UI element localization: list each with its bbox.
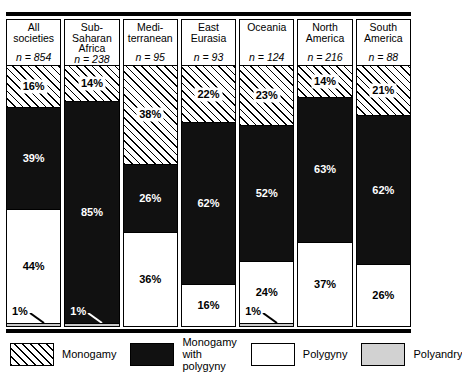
stacked-bar: 16%39%44%1% bbox=[6, 66, 61, 327]
bar-segment-monogamy: 16% bbox=[7, 66, 60, 108]
column-sample-size: n = 238 bbox=[74, 54, 109, 65]
bar-segment-mono-poly: 62% bbox=[182, 123, 235, 284]
column-title: Oceania bbox=[247, 22, 286, 33]
column-header: Medi- terraneann = 95 bbox=[123, 19, 178, 66]
bar-segment-monogamy: 22% bbox=[182, 66, 235, 123]
segment-value-label: 62% bbox=[372, 185, 394, 196]
column-header: Oceanian = 124 bbox=[239, 19, 294, 66]
segment-value-label: 52% bbox=[256, 188, 278, 199]
column-title: Sub- Saharan Africa bbox=[72, 22, 112, 54]
bar-segment-polyandry bbox=[7, 323, 60, 326]
segment-value-label: 37% bbox=[314, 279, 336, 290]
stacked-bar: 14%63%37% bbox=[297, 66, 352, 327]
column-header: South American = 88 bbox=[356, 19, 411, 66]
segment-value-label: 38% bbox=[138, 109, 162, 120]
bar-segment-polygyny: 16% bbox=[182, 284, 235, 326]
segment-value-label: 62% bbox=[197, 198, 219, 209]
column-title: All societies bbox=[13, 22, 54, 43]
segment-value-label: 22% bbox=[196, 89, 220, 100]
column-sample-size: n = 95 bbox=[135, 52, 165, 63]
chart-column: Medi- terraneann = 9538%26%36% bbox=[123, 19, 178, 327]
segment-value-label: 36% bbox=[139, 274, 161, 285]
bar-segment-polygyny: 37% bbox=[298, 242, 351, 326]
chart-legend: MonogamyMonogamy with polygynyPolygynyPo… bbox=[10, 338, 410, 370]
legend-item: Polygyny bbox=[251, 343, 348, 366]
column-sample-size: n = 124 bbox=[249, 52, 284, 63]
legend-label: Polygyny bbox=[303, 348, 348, 360]
legend-label: Monogamy bbox=[62, 348, 116, 360]
legend-swatch-monogamy bbox=[10, 343, 54, 366]
segment-value-label: 16% bbox=[197, 300, 219, 311]
column-sample-size: n = 93 bbox=[194, 52, 224, 63]
bar-segment-mono-poly: 85% bbox=[65, 102, 118, 323]
chart-column: South American = 8821%62%26% bbox=[356, 19, 411, 327]
stacked-bar: 21%62%26% bbox=[356, 66, 411, 327]
legend-label: Polyandry bbox=[413, 348, 462, 360]
bar-segment-polyandry bbox=[240, 323, 293, 326]
bar-segment-mono-poly: 63% bbox=[298, 98, 351, 242]
column-sample-size: n = 88 bbox=[369, 52, 399, 63]
bar-segment-polygyny: 36% bbox=[124, 232, 177, 326]
chart-columns: All societiesn = 85416%39%44%1%Sub- Saha… bbox=[6, 19, 411, 327]
bottom-rule bbox=[6, 329, 411, 333]
bar-segment-monogamy: 38% bbox=[124, 66, 177, 165]
column-header: All societiesn = 854 bbox=[6, 19, 61, 66]
chart-column: East Eurasian = 9322%62%16% bbox=[181, 19, 236, 327]
legend-item: Polyandry bbox=[361, 343, 462, 366]
polyandry-callout-label: 1% bbox=[12, 306, 28, 317]
chart-column: North American = 21614%63%37% bbox=[297, 19, 352, 327]
chart-column: All societiesn = 85416%39%44%1% bbox=[6, 19, 61, 327]
segment-value-label: 14% bbox=[313, 76, 337, 87]
legend-item: Monogamy bbox=[10, 343, 116, 366]
column-header: Sub- Saharan African = 238 bbox=[64, 19, 119, 66]
bar-segment-monogamy: 21% bbox=[357, 66, 410, 116]
top-rule bbox=[6, 12, 411, 16]
chart-column: Oceanian = 12423%52%24%1% bbox=[239, 19, 294, 327]
bar-segment-mono-poly: 26% bbox=[124, 165, 177, 233]
segment-value-label: 16% bbox=[22, 81, 46, 92]
polyandry-callout-label: 1% bbox=[70, 306, 86, 317]
legend-swatch-polygyny bbox=[251, 343, 295, 366]
chart-column: Sub- Saharan African = 23814%85%1% bbox=[64, 19, 119, 327]
segment-value-label: 26% bbox=[372, 290, 394, 301]
stacked-bar: 22%62%16% bbox=[181, 66, 236, 327]
segment-value-label: 21% bbox=[371, 85, 395, 96]
bar-segment-mono-poly: 62% bbox=[357, 116, 410, 264]
segment-value-label: 24% bbox=[256, 287, 278, 298]
stacked-bar: 14%85%1% bbox=[64, 66, 119, 327]
column-title: North America bbox=[306, 22, 345, 43]
column-sample-size: n = 216 bbox=[307, 52, 342, 63]
bar-segment-monogamy: 23% bbox=[240, 66, 293, 126]
legend-item: Monogamy with polygyny bbox=[130, 336, 236, 372]
polyandry-callout-label: 1% bbox=[245, 306, 261, 317]
legend-label: Monogamy with polygyny bbox=[182, 336, 236, 372]
bar-segment-mono-poly: 52% bbox=[240, 126, 293, 261]
bar-segment-monogamy: 14% bbox=[65, 66, 118, 102]
bar-segment-polyandry bbox=[65, 323, 118, 326]
column-header: East Eurasian = 93 bbox=[181, 19, 236, 66]
segment-value-label: 26% bbox=[139, 193, 161, 204]
column-title: East Eurasia bbox=[191, 22, 227, 43]
column-sample-size: n = 854 bbox=[16, 52, 51, 63]
segment-value-label: 23% bbox=[255, 90, 279, 101]
bar-segment-mono-poly: 39% bbox=[7, 108, 60, 209]
column-title: Medi- terranean bbox=[128, 22, 173, 43]
bar-segment-polygyny: 26% bbox=[357, 264, 410, 326]
legend-swatch-polyandry bbox=[361, 343, 405, 366]
segment-value-label: 39% bbox=[23, 153, 45, 164]
segment-value-label: 85% bbox=[81, 207, 103, 218]
stacked-bar: 38%26%36% bbox=[123, 66, 178, 327]
segment-value-label: 44% bbox=[23, 261, 45, 272]
segment-value-label: 14% bbox=[80, 78, 104, 89]
bar-segment-monogamy: 14% bbox=[298, 66, 351, 98]
column-header: North American = 216 bbox=[297, 19, 352, 66]
column-title: South America bbox=[364, 22, 403, 43]
segment-value-label: 63% bbox=[314, 164, 336, 175]
legend-swatch-mono-poly bbox=[130, 343, 174, 366]
stacked-bar: 23%52%24%1% bbox=[239, 66, 294, 327]
